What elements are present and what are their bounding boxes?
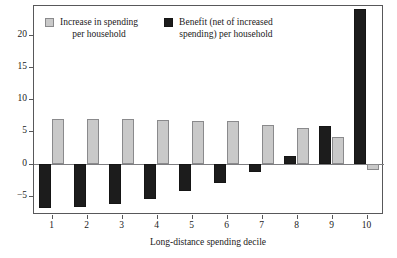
bar-benefit-decile-8 [284, 156, 297, 163]
x-axis-tick-mark [297, 215, 298, 219]
x-axis-tick-label: 10 [362, 221, 372, 231]
y-axis-tick-label: −5 [17, 191, 27, 201]
bar-increase-in-spending-decile-2 [87, 119, 100, 164]
x-axis-tick-mark [332, 215, 333, 219]
y-axis-tick-label: 5 [22, 127, 27, 137]
y-axis-tick-label: 0 [22, 159, 27, 169]
x-axis-tick-label: 9 [329, 221, 334, 231]
x-axis-tick-label: 4 [154, 221, 159, 231]
legend-entry-increase-in-spending: Increase in spending per household [45, 17, 138, 40]
bar-benefit-decile-7 [249, 164, 262, 172]
y-axis-tick-mark [29, 99, 34, 100]
bar-benefit-decile-4 [144, 164, 157, 199]
x-axis-tick-label: 1 [49, 221, 54, 231]
legend-label-increase-in-spending: Increase in spending per household [60, 17, 138, 40]
x-axis-tick-label: 7 [259, 221, 264, 231]
legend-swatch-gray-icon [45, 18, 54, 27]
bar-benefit-decile-2 [74, 164, 87, 208]
bar-benefit-decile-6 [214, 164, 227, 183]
bar-increase-in-spending-decile-3 [122, 119, 135, 163]
chart-legend: Increase in spending per household Benef… [45, 17, 273, 40]
bar-benefit-decile-9 [319, 126, 332, 163]
chart-root: 20151050−5 12345678910 Increase in spend… [0, 0, 397, 258]
x-axis-tick-label: 2 [84, 221, 89, 231]
x-axis-tick-label: 5 [189, 221, 194, 231]
zero-baseline [34, 164, 384, 165]
y-axis-tick-mark [29, 131, 34, 132]
y-axis-tick-mark [29, 67, 34, 68]
legend-label-line2: spending) per household [179, 29, 273, 41]
x-axis-tick-mark [157, 215, 158, 219]
x-axis-tick-mark [52, 215, 53, 219]
bar-increase-in-spending-decile-9 [332, 137, 345, 163]
x-axis-tick-label: 6 [224, 221, 229, 231]
bar-increase-in-spending-decile-4 [157, 120, 170, 164]
x-axis-tick-mark [262, 215, 263, 219]
y-axis-tick-mark [29, 164, 34, 165]
x-axis-tick-mark [192, 215, 193, 219]
y-axis-tick-mark [29, 35, 34, 36]
bar-increase-in-spending-decile-5 [192, 121, 205, 163]
y-axis-tick-label: 10 [18, 94, 28, 104]
x-axis-tick-label: 3 [119, 221, 124, 231]
bar-increase-in-spending-decile-1 [52, 119, 65, 163]
x-axis-title: Long-distance spending decile [33, 238, 383, 248]
bar-benefit-decile-1 [39, 164, 52, 208]
y-axis-tick-label: 20 [18, 30, 28, 40]
x-axis-tick-mark [367, 215, 368, 219]
x-axis-tick-label: 8 [294, 221, 299, 231]
x-axis-tick-mark [122, 215, 123, 219]
x-axis-tick-mark [227, 215, 228, 219]
legend-label-line1: Increase in spending [60, 17, 138, 29]
bar-increase-in-spending-decile-7 [262, 125, 275, 164]
bar-increase-in-spending-decile-6 [227, 121, 240, 163]
legend-label-line1: Benefit (net of increased [179, 17, 273, 29]
bar-increase-in-spending-decile-10 [367, 164, 380, 170]
legend-entry-benefit: Benefit (net of increased spending) per … [164, 17, 273, 40]
x-axis-tick-mark [87, 215, 88, 219]
legend-label-benefit: Benefit (net of increased spending) per … [179, 17, 273, 40]
bar-benefit-decile-10 [354, 9, 367, 163]
legend-swatch-black-icon [164, 18, 173, 27]
bar-benefit-decile-3 [109, 164, 122, 205]
bar-benefit-decile-5 [179, 164, 192, 192]
y-axis-tick-mark [29, 196, 34, 197]
y-axis-tick-label: 15 [18, 62, 28, 72]
legend-label-line2: per household [60, 29, 138, 41]
bar-increase-in-spending-decile-8 [297, 128, 310, 163]
